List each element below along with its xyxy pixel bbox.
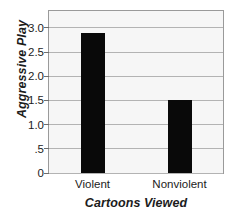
- x-axis-title: Cartoons Viewed: [48, 196, 224, 210]
- y-axis-tick-label: 1.0: [12, 119, 44, 131]
- gridline: [49, 148, 223, 149]
- y-axis-tick-mark: [44, 124, 49, 125]
- gridline: [49, 52, 223, 53]
- bar-chart-figure: Aggressive Play 0.51.01.52.02.53.0 Viole…: [0, 0, 235, 220]
- y-axis-tick-mark: [44, 173, 49, 174]
- y-axis-tick-label: 2.0: [12, 70, 44, 82]
- y-axis-tick-mark: [44, 100, 49, 101]
- y-axis-tick-label: 3.0: [12, 22, 44, 34]
- plot-inner: [49, 11, 223, 173]
- gridline: [49, 100, 223, 101]
- y-axis-tick-mark: [44, 27, 49, 28]
- y-axis-tick-mark: [44, 76, 49, 77]
- x-axis-tick-labels: ViolentNonviolent: [48, 178, 224, 194]
- bar-violent: [81, 33, 105, 173]
- y-axis-tick-label: 0: [12, 167, 44, 179]
- y-axis-tick-label: 2.5: [12, 46, 44, 58]
- y-axis-tick-labels: 0.51.01.52.02.53.0: [12, 10, 44, 174]
- y-axis-tick-mark: [44, 148, 49, 149]
- x-axis-tick-label: Violent: [75, 178, 110, 190]
- plot-area: [48, 10, 224, 174]
- x-axis-tick-label: Nonviolent: [152, 178, 206, 190]
- gridline: [49, 124, 223, 125]
- gridline: [49, 76, 223, 77]
- y-axis-tick-label: 1.5: [12, 94, 44, 106]
- y-axis-tick-mark: [44, 52, 49, 53]
- y-axis-tick-label: .5: [12, 143, 44, 155]
- gridline: [49, 27, 223, 28]
- bar-nonviolent: [168, 100, 192, 174]
- gridline: [49, 173, 223, 174]
